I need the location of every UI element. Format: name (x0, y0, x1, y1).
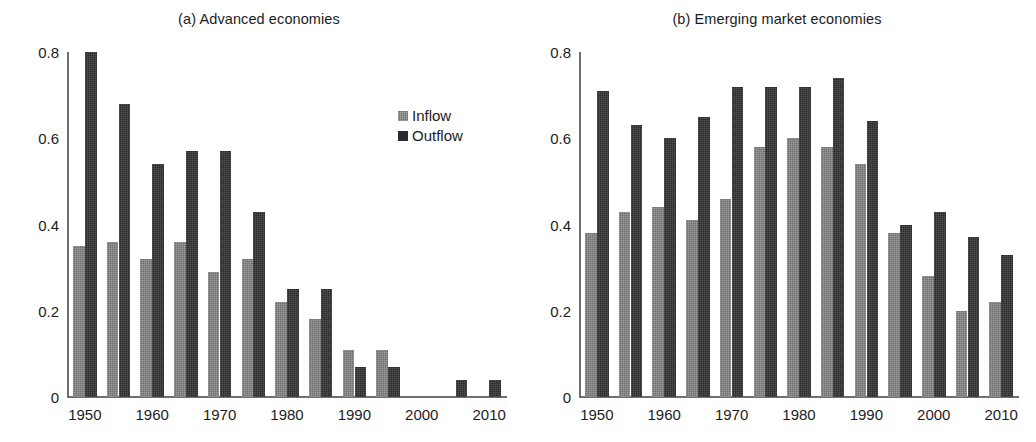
y-tick-label: 0.8 (38, 44, 59, 61)
x-tick-label: 1950 (580, 406, 613, 423)
bar-outflow-1995 (388, 367, 400, 397)
bar-inflow-1970 (208, 272, 220, 397)
bar-outflow-1955 (119, 104, 131, 397)
bar-outflow-1970 (220, 151, 232, 397)
x-tick-label: 1950 (68, 406, 101, 423)
bar-outflow-1990 (355, 367, 367, 397)
x-tick-label: 1970 (203, 406, 236, 423)
bar-outflow-1960 (152, 164, 164, 397)
bar-inflow-1995 (888, 233, 900, 397)
bar-outflow-1965 (698, 117, 710, 397)
bar-outflow-2005 (968, 237, 980, 397)
x-tick-label: 1960 (136, 406, 169, 423)
panel-advanced-economies: (a) Advanced economies 00.20.40.60.8 195… (0, 0, 518, 442)
panel-title-advanced: (a) Advanced economies (0, 11, 518, 27)
x-tick-label: 1990 (338, 406, 371, 423)
legend-item-outflow: Outflow (398, 126, 463, 146)
y-tick-label: 0.8 (550, 44, 571, 61)
bar-outflow-1960 (664, 138, 676, 397)
bar-outflow-1985 (833, 78, 845, 397)
y-tick-label: 0 (51, 389, 59, 406)
bar-inflow-1950 (585, 233, 597, 397)
bar-inflow-1950 (73, 246, 85, 397)
bar-inflow-1955 (107, 242, 119, 397)
bar-outflow-1955 (631, 125, 643, 397)
bar-inflow-1980 (787, 138, 799, 397)
bar-inflow-1990 (855, 164, 867, 397)
bar-outflow-2005 (456, 380, 468, 397)
y-tick-label: 0.4 (550, 216, 571, 233)
bar-inflow-1955 (619, 212, 631, 397)
plot-area-emerging: 00.20.40.60.8 19501960197019801990200020… (580, 52, 1018, 397)
bar-outflow-2000 (934, 212, 946, 397)
bar-outflow-1970 (732, 87, 744, 398)
bar-inflow-1960 (652, 207, 664, 397)
legend-item-inflow: Inflow (398, 106, 463, 126)
bar-outflow-1980 (799, 87, 811, 398)
bar-inflow-1995 (376, 350, 388, 397)
plot-area-advanced: 00.20.40.60.8 19501960197019801990200020… (68, 52, 506, 397)
bar-group-container-advanced (68, 52, 506, 397)
bar-inflow-1965 (174, 242, 186, 397)
y-tick-label: 0.2 (38, 302, 59, 319)
bar-outflow-1990 (867, 121, 879, 397)
legend-advanced: Inflow Outflow (398, 106, 463, 146)
x-tick-label: 1990 (850, 406, 883, 423)
bar-outflow-1950 (597, 91, 609, 397)
bar-inflow-1990 (343, 350, 355, 397)
panel-title-emerging: (b) Emerging market economies (518, 11, 1036, 27)
bar-outflow-1965 (186, 151, 198, 397)
bar-inflow-1970 (720, 199, 732, 397)
y-tick-label: 0.2 (550, 302, 571, 319)
x-tick-label: 2000 (917, 406, 950, 423)
x-tick-label: 2000 (405, 406, 438, 423)
bar-inflow-1985 (821, 147, 833, 397)
y-tick-label: 0 (563, 389, 571, 406)
bar-outflow-1950 (85, 52, 97, 397)
y-tick-label: 0.6 (38, 130, 59, 147)
x-tick-label: 1960 (648, 406, 681, 423)
bar-inflow-1980 (275, 302, 287, 397)
bar-outflow-1995 (900, 225, 912, 398)
bar-inflow-2005 (956, 311, 968, 397)
bar-outflow-1985 (321, 289, 333, 397)
x-tick-label: 1970 (715, 406, 748, 423)
figure-two-panel-bar-charts: (a) Advanced economies 00.20.40.60.8 195… (0, 0, 1036, 442)
x-tick-label: 1980 (782, 406, 815, 423)
bar-outflow-2010 (489, 380, 501, 397)
panel-emerging-market-economies: (b) Emerging market economies 00.20.40.6… (518, 0, 1036, 442)
bar-inflow-1975 (754, 147, 766, 397)
y-tick-label: 0.6 (550, 130, 571, 147)
bar-outflow-1980 (287, 289, 299, 397)
bar-inflow-1975 (242, 259, 254, 397)
bar-outflow-1975 (765, 87, 777, 398)
bar-inflow-1965 (686, 220, 698, 397)
bar-inflow-2000 (922, 276, 934, 397)
legend-label-inflow: Inflow (412, 106, 451, 126)
bar-outflow-2010 (1001, 255, 1013, 397)
x-tick-label: 2010 (472, 406, 505, 423)
bar-group-container-emerging (580, 52, 1018, 397)
bar-outflow-1975 (253, 212, 265, 397)
x-tick-label: 2010 (984, 406, 1017, 423)
legend-swatch-outflow-icon (398, 131, 408, 141)
bar-inflow-1985 (309, 319, 321, 397)
legend-swatch-inflow-icon (398, 111, 408, 121)
bar-inflow-2010 (989, 302, 1001, 397)
bar-inflow-1960 (140, 259, 152, 397)
x-tick-label: 1980 (270, 406, 303, 423)
legend-label-outflow: Outflow (412, 126, 463, 146)
y-tick-label: 0.4 (38, 216, 59, 233)
